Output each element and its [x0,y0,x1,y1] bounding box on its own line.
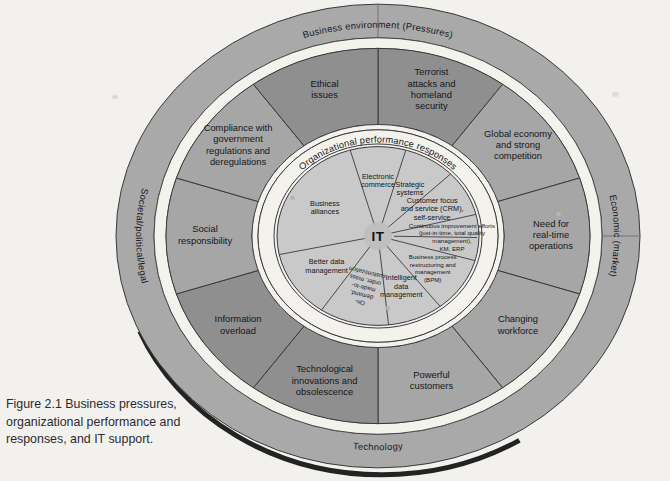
it-hub-label: IT [372,229,385,244]
figure-caption: Figure 2.1 Business pressures, organizat… [6,396,196,449]
outer-ring-label-bottom: Technology [353,441,404,452]
pressure-segment-label-9: Ethicalissues [310,78,338,100]
pressure-segment-label-5: Technologicalinnovations andobsolescence [292,364,358,398]
it-response-label-0: Electroniccommerce [361,172,395,189]
pressure-segment-label-3: Changingworkforce [497,314,539,336]
pressure-segment-label-6: Informationoverload [215,314,262,336]
it-response-label-1: Strategicsystems [396,180,425,197]
it-response-label-7: Better datamanagement [305,257,348,274]
it-response-label-8: Businessalliances [310,198,340,215]
pressure-segment-label-4: Powerfulcustomers [410,369,454,391]
pressure-segment-label-2: Need forreal-timeoperations [529,218,573,252]
pressure-segment-label-8: Compliance withgovernmentregulations and… [204,122,273,167]
